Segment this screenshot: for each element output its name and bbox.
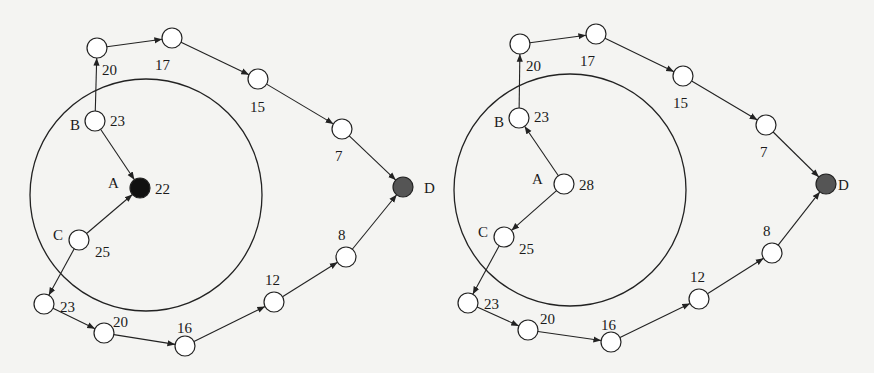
node-n1	[510, 34, 530, 54]
node-value-label: 8	[338, 227, 346, 243]
routing-diagram-canvas: 2017157D23B22A25C232016128 2017157D23B28…	[0, 0, 874, 373]
edge-arrow	[267, 84, 334, 124]
node-name-label: C	[478, 224, 488, 240]
node-value-label: 17	[155, 57, 171, 73]
node-n7	[601, 332, 621, 352]
node-name-label: A	[532, 171, 543, 187]
edge-arrow	[49, 249, 74, 295]
node-name-label: D	[424, 180, 435, 196]
node-value-label: 7	[760, 144, 768, 160]
edge-arrow	[194, 306, 265, 341]
node-n8	[264, 292, 284, 312]
node-value-label: 12	[690, 269, 705, 285]
node-n3	[673, 66, 693, 86]
node-D	[816, 174, 836, 194]
edge-arrow	[778, 192, 820, 245]
node-value-label: 25	[519, 241, 534, 257]
edge-arrow	[538, 331, 601, 340]
node-value-label: 23	[110, 113, 125, 129]
edge-arrow	[511, 191, 556, 231]
node-value-label: 17	[580, 53, 596, 69]
node-value-label: 23	[484, 296, 499, 312]
node-n6	[518, 320, 538, 340]
node-B	[85, 111, 105, 131]
edge-arrow	[473, 246, 499, 294]
node-n5	[34, 294, 54, 314]
node-n2	[586, 24, 606, 44]
node-n7	[175, 336, 195, 356]
node-A	[130, 178, 150, 198]
edge-arrow	[525, 126, 559, 175]
node-n6	[94, 323, 114, 343]
edge-arrow	[107, 39, 162, 46]
node-n1	[87, 38, 107, 58]
node-D	[393, 177, 413, 197]
node-value-label: 8	[763, 223, 771, 239]
edge-arrow	[87, 194, 133, 233]
node-value-label: 7	[335, 148, 343, 164]
node-n8	[689, 289, 709, 309]
node-value-label: 20	[526, 58, 541, 74]
node-n4	[332, 119, 352, 139]
edge-arrow	[530, 35, 586, 42]
node-name-label: B	[70, 117, 80, 133]
node-value-label: 20	[102, 62, 117, 78]
node-value-label: 23	[534, 109, 549, 125]
node-name-label: A	[108, 175, 119, 191]
node-value-label: 20	[113, 314, 128, 330]
node-value-label: 28	[579, 177, 594, 193]
node-n3	[248, 69, 268, 89]
diagram-left: 2017157D23B22A25C232016128	[30, 28, 435, 356]
edge-arrow	[605, 38, 674, 71]
node-n5	[458, 293, 478, 313]
edge-arrow	[707, 258, 763, 293]
node-name-label: C	[53, 227, 63, 243]
edge-arrow	[349, 136, 396, 180]
node-value-label: 20	[540, 311, 555, 327]
node-A	[554, 174, 574, 194]
edge-arrow	[519, 54, 520, 108]
node-value-label: 23	[60, 299, 75, 315]
node-value-label: 16	[601, 317, 617, 333]
node-n9	[762, 243, 782, 263]
edge-arrow	[620, 303, 690, 337]
edge-arrow	[114, 335, 175, 345]
edge-arrow	[352, 195, 396, 249]
node-value-label: 22	[155, 181, 170, 197]
edge-arrow	[101, 129, 135, 179]
edge-arrow	[692, 81, 758, 120]
node-C	[69, 230, 89, 250]
node-value-label: 15	[673, 95, 688, 111]
edge-arrow	[773, 132, 819, 177]
node-value-label: 15	[250, 99, 265, 115]
node-B	[509, 108, 529, 128]
node-n9	[336, 247, 356, 267]
node-C	[494, 227, 514, 247]
node-value-label: 12	[265, 272, 280, 288]
node-value-label: 25	[95, 244, 110, 260]
node-value-label: 16	[177, 320, 193, 336]
node-n4	[756, 115, 776, 135]
node-n2	[162, 28, 182, 48]
node-name-label: D	[838, 177, 849, 193]
edge-arrow	[95, 58, 96, 111]
diagram-right: 2017157D23B28A25C232016128	[454, 24, 849, 352]
edge-arrow	[181, 42, 249, 74]
node-name-label: B	[494, 114, 504, 130]
edge-arrow	[282, 262, 337, 296]
